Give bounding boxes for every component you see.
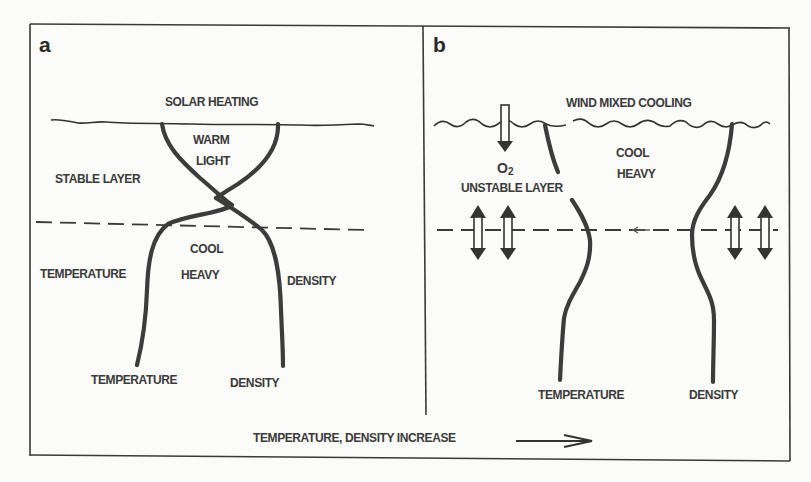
small-left-arrow-icon (632, 227, 650, 233)
unstable-layer-label: UNSTABLE LAYER (461, 181, 563, 195)
density-bottom-label-a: DENSITY (230, 376, 280, 390)
cool-label-b: COOL (616, 146, 649, 160)
bottom-axis: TEMPERATURE, DENSITY INCREASE (253, 431, 592, 447)
panel-a-letter: a (39, 33, 51, 56)
density-profile-b (692, 124, 732, 382)
warm-label: WARM (193, 133, 230, 147)
mixing-double-arrow-icon (500, 205, 516, 260)
density-side-label-a: DENSITY (287, 274, 337, 288)
temperature-profile-b-upper (545, 125, 558, 172)
figure-frame (30, 24, 790, 461)
panel-divider (423, 26, 426, 415)
mixing-double-arrow-icon (727, 205, 743, 260)
temperature-bottom-label-a: TEMPERATURE (91, 373, 177, 387)
mixing-double-arrow-icon (470, 205, 486, 260)
heavy-label-b: HEAVY (617, 167, 656, 181)
thermocline-line-a (36, 222, 365, 230)
stratification-diagram: a SOLAR HEATING WARM LIGHT STABLE LAYER … (0, 0, 811, 482)
mixing-double-arrow-icon (757, 205, 773, 260)
water-surface-b-right (573, 119, 770, 128)
right-arrow-icon (516, 435, 592, 447)
stable-layer-label: STABLE LAYER (55, 172, 141, 186)
heavy-label-a: HEAVY (181, 268, 220, 282)
panel-b-letter: b (433, 33, 446, 56)
oxygen-down-arrow-icon (497, 105, 513, 152)
temperature-bottom-label-b: TEMPERATURE (538, 388, 624, 402)
temperature-side-label-a: TEMPERATURE (40, 267, 126, 281)
density-bottom-label-b: DENSITY (689, 388, 739, 402)
water-surface-a (51, 120, 374, 126)
panel-a: a SOLAR HEATING WARM LIGHT STABLE LAYER … (36, 33, 374, 390)
temperature-profile-b-lower (560, 200, 590, 380)
light-label: LIGHT (196, 154, 231, 168)
bottom-axis-label: TEMPERATURE, DENSITY INCREASE (253, 431, 456, 445)
panel-b: b WIND MIXED COOLING O2 UNSTABLE LAYER C… (433, 33, 778, 402)
cool-label-a: COOL (190, 242, 223, 256)
solar-heating-label: SOLAR HEATING (165, 95, 258, 109)
oxygen-label: O2 (497, 160, 514, 177)
wind-mixed-cooling-label: WIND MIXED COOLING (566, 96, 692, 110)
